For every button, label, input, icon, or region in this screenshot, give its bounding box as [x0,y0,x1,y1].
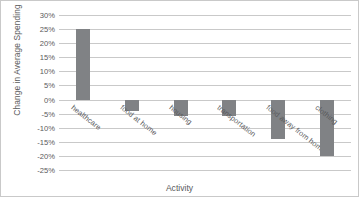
bar-series: healthcarefood at homehousingtransportat… [59,15,351,170]
y-axis-title: Change in Average Spending [12,0,22,130]
y-axis-tick-label: -25% [37,166,55,175]
y-axis-tick-label: -10% [37,123,55,132]
y-axis-tick-label: -15% [37,137,55,146]
y-axis-tick-label: 15% [40,53,55,62]
bar-column: clothing [302,15,351,170]
bar-column: healthcare [59,15,108,170]
y-axis-tick-label: 5% [44,81,55,90]
x-axis-category-label: healthcare [70,103,104,132]
bar-column: transportation [205,15,254,170]
chart-container: Change in Average Spending 30%25%20%15%1… [0,0,359,197]
x-axis-title: Activity [1,183,358,193]
y-axis-tick-label: -20% [37,151,55,160]
bar-column: housing [156,15,205,170]
plot-area: 30%25%20%15%10%5%0%-5%-10%-15%-20%-25% h… [59,15,351,170]
bar-column: food away from home [254,15,303,170]
bar[interactable] [76,29,90,99]
y-axis-tick-label: 20% [40,39,55,48]
y-axis-tick-label: -5% [41,109,55,118]
y-axis-tick-label: 25% [40,25,55,34]
y-axis-tick-label: 30% [40,11,55,20]
bar-column: food at home [108,15,157,170]
x-axis-category-label: transportation [216,103,258,139]
y-axis-tick-label: 0% [44,95,55,104]
gridline: -25% [59,170,351,171]
y-axis-tick-label: 10% [40,67,55,76]
